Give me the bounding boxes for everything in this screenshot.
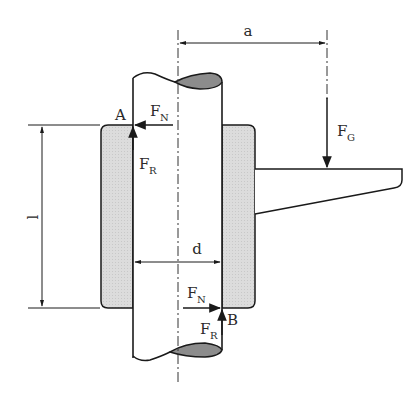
svg-text:N: N xyxy=(160,112,169,123)
svg-text:R: R xyxy=(149,165,157,176)
dimension-l: l xyxy=(24,125,100,308)
svg-text:G: G xyxy=(347,132,355,143)
dim-d-label: d xyxy=(192,240,202,258)
svg-text:F: F xyxy=(139,155,149,173)
bracket-arm xyxy=(255,169,402,214)
sleeve-right-part xyxy=(222,125,255,308)
svg-text:N: N xyxy=(197,294,206,305)
svg-text:F: F xyxy=(150,102,160,120)
sleeve-shaft-diagram: a F G l d A F N F R F N B F R xyxy=(0,0,420,395)
force-weight: F G xyxy=(327,98,355,167)
svg-text:F: F xyxy=(200,320,210,338)
dim-l-label: l xyxy=(24,214,42,219)
sleeve-left-part xyxy=(101,125,133,308)
svg-text:R: R xyxy=(210,330,218,341)
point-b-label: B xyxy=(227,311,238,329)
dim-a-label: a xyxy=(244,22,253,40)
point-a-label: A xyxy=(114,106,126,124)
svg-text:F: F xyxy=(187,284,197,302)
svg-text:F: F xyxy=(337,122,347,140)
